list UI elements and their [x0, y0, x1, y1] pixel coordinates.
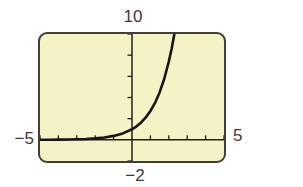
- ymin-label: −2: [125, 167, 144, 184]
- xmax-label: 5: [233, 127, 242, 144]
- xmin-label: −5: [4, 130, 34, 147]
- graphing-window-figure: 10 −5 5 −2: [0, 0, 303, 187]
- calculator-screen: [38, 32, 226, 163]
- plot-svg: [40, 34, 224, 161]
- ymax-label: 10: [124, 8, 143, 25]
